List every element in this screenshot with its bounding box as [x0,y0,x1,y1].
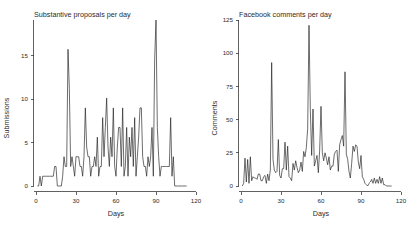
x-tick-label: 120 [191,197,202,204]
x-tick-label: 120 [396,197,407,204]
y-tick-label: 75 [226,83,233,90]
x-tick-label: 30 [278,197,285,204]
y-axis-label-right: Comments [210,100,219,135]
x-tick-label: 90 [358,197,365,204]
x-tick-label: 0 [34,197,38,204]
chart-title-left: Substantive proposals per day [34,10,131,19]
y-tick-group-left: 0 5 10 15 [21,52,33,190]
x-axis-label-left: Days [108,209,125,218]
x-tick-label: 0 [239,197,243,204]
y-axis-right: 0 25 50 75 100 125 [223,16,239,189]
chart-panel-submissions: Substantive proposals per day Submission… [0,0,208,230]
data-series-line-left [37,20,186,186]
dual-timeseries-figure: Substantive proposals per day Submission… [0,0,416,230]
x-tick-group-right: 0 30 60 90 120 [239,192,406,204]
x-tick-label: 60 [113,197,120,204]
comments-chart-svg: Facebook comments per day Comments 0 25 … [208,0,416,230]
y-tick-label: 10 [21,95,28,102]
x-axis-right: 0 30 60 90 120 Days [239,192,407,219]
y-tick-label: 5 [25,139,29,146]
x-tick-group-left: 0 30 60 90 120 [34,192,201,204]
y-tick-label: 0 [230,182,234,189]
x-tick-label: 90 [153,197,160,204]
x-tick-label: 60 [318,197,325,204]
submissions-chart-svg: Substantive proposals per day Submission… [0,0,208,230]
x-axis-left: 0 30 60 90 120 Days [34,192,202,219]
y-axis-label-left: Submissions [2,97,11,138]
data-series-line-right [242,25,391,186]
chart-title-right: Facebook comments per day [239,10,332,19]
x-axis-label-right: Days [313,209,330,218]
y-tick-label: 125 [223,16,234,23]
y-tick-label: 100 [223,49,234,56]
y-tick-label: 25 [226,149,233,156]
x-tick-label: 30 [73,197,80,204]
y-tick-label: 15 [21,52,28,59]
y-tick-group-right: 0 25 50 75 100 125 [223,16,239,189]
y-tick-label: 50 [226,116,233,123]
y-axis-left: 0 5 10 15 [21,20,33,189]
chart-panel-comments: Facebook comments per day Comments 0 25 … [208,0,416,230]
y-tick-label: 0 [25,182,29,189]
